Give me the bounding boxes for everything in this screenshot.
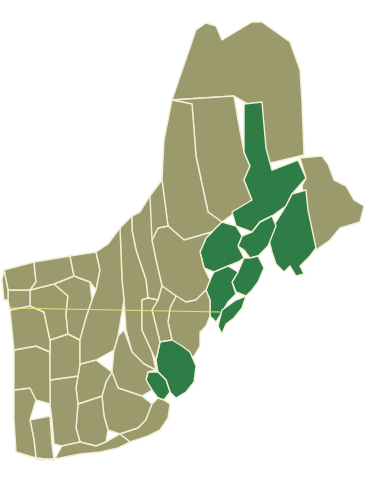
county-chittenden bbox=[8, 290, 30, 310]
county-orange bbox=[50, 334, 80, 380]
county-map bbox=[0, 0, 387, 478]
county-windsor bbox=[50, 376, 80, 446]
